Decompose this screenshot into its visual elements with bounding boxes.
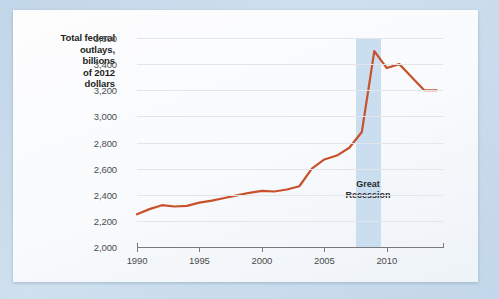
x-tick-label: 2000: [252, 255, 273, 266]
x-tick-mark: [262, 247, 263, 252]
chart-panel: Total federal outlays, billions of 2012 …: [13, 10, 478, 282]
gridline: [137, 195, 443, 196]
x-tick-label: 2005: [314, 255, 335, 266]
y-tick-label: 2,600: [71, 163, 117, 174]
y-tick-label: 3,400: [71, 59, 117, 70]
gridline: [137, 38, 443, 39]
y-tick-label: 3,200: [71, 85, 117, 96]
x-tick-mark: [199, 247, 200, 252]
gridline: [137, 221, 443, 222]
series-path: [137, 51, 437, 214]
x-axis-cap: [443, 243, 444, 248]
x-axis-cap: [137, 243, 138, 248]
x-axis-tick-labels: 19901995200020052010: [137, 247, 443, 271]
gridline: [137, 116, 443, 117]
y-tick-label: 2,000: [71, 242, 117, 253]
x-tick-label: 1995: [189, 255, 210, 266]
plot-wrapper: Total federal outlays, billions of 2012 …: [13, 10, 478, 282]
x-tick-mark: [387, 247, 388, 252]
x-tick-label: 2010: [376, 255, 397, 266]
x-tick-mark: [324, 247, 325, 252]
figure-container: Total federal outlays, billions of 2012 …: [0, 0, 499, 299]
gridline: [137, 169, 443, 170]
gridline: [137, 143, 443, 144]
y-tick-label: 2,800: [71, 137, 117, 148]
gridline: [137, 64, 443, 65]
gridline: [137, 90, 443, 91]
y-tick-label: 3,600: [71, 33, 117, 44]
y-tick-label: 2,400: [71, 189, 117, 200]
x-tick-label: 1990: [127, 255, 148, 266]
plot-area: Great Recession: [137, 38, 443, 247]
y-tick-label: 3,000: [71, 111, 117, 122]
y-tick-label: 2,200: [71, 215, 117, 226]
y-axis-tick-labels: 2,0002,2002,4002,6002,8003,0003,2003,400…: [71, 10, 117, 282]
